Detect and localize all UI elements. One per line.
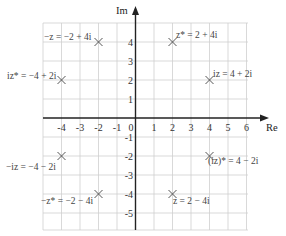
label-iz: iz = 4 + 2i — [213, 69, 253, 79]
label-neg-z-conj: −z* = −2 − 4i — [41, 196, 93, 206]
svg-text:3: 3 — [128, 56, 133, 67]
svg-text:1: 1 — [128, 94, 133, 105]
svg-text:1: 1 — [152, 122, 157, 133]
svg-text:-1: -1 — [113, 122, 121, 133]
svg-text:-3: -3 — [76, 122, 84, 133]
svg-text:-4: -4 — [125, 189, 133, 200]
label-z: z = 2 − 4i — [173, 196, 210, 206]
svg-text:3: 3 — [189, 122, 194, 133]
svg-text:4: 4 — [128, 37, 133, 48]
svg-text:-5: -5 — [125, 208, 133, 219]
label-z-conj: z* = 2 + 4i — [176, 30, 218, 40]
svg-text:2: 2 — [170, 122, 175, 133]
svg-text:-4: -4 — [57, 122, 65, 133]
svg-text:-3: -3 — [125, 170, 133, 181]
svg-text:5: 5 — [226, 122, 231, 133]
x-tick-labels: -4 -3 -2 -1 0 1 2 3 4 5 6 — [57, 122, 249, 133]
y-axis-arrow-icon — [132, 6, 139, 15]
svg-text:4: 4 — [207, 122, 212, 133]
y-axis-label: Im — [116, 5, 128, 16]
svg-text:6: 6 — [244, 122, 249, 133]
x-axis-label: Re — [266, 122, 278, 133]
complex-plane-diagram: Re Im -4 -3 -2 -1 0 1 2 3 4 5 6 4 3 2 1 … — [0, 0, 286, 236]
svg-text:-2: -2 — [94, 122, 102, 133]
svg-text:2: 2 — [128, 75, 133, 86]
svg-text:-2: -2 — [125, 151, 133, 162]
label-neg-iz: −iz = −4 − 2i — [6, 162, 56, 172]
x-axis-arrow-icon — [260, 115, 269, 122]
svg-text:-1: -1 — [125, 132, 133, 143]
label-iz-conj-2: (iz)* = 4 − 2i — [208, 156, 259, 167]
label-iz-conj: iz* = −4 + 2i — [7, 71, 57, 81]
label-neg-z: −z = −2 + 4i — [44, 32, 92, 42]
